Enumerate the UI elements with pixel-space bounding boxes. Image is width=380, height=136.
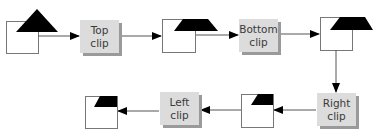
top-clipped-shape [174, 19, 218, 31]
window-after-left-clip [86, 96, 118, 129]
stage-top-clip-line2: clip [90, 37, 108, 50]
stage-right-clip-line2: clip [327, 110, 345, 123]
window-after-bottom-clip [321, 17, 374, 51]
original-triangle-shape [16, 9, 58, 32]
stage-top-clip-line1: Top [91, 24, 109, 37]
left-clipped-shape [94, 96, 117, 107]
stage-bottom-clip: Bottom clip [239, 19, 278, 52]
stage-right-clip: Right clip [317, 93, 356, 126]
stage-right-clip-line1: Right [323, 97, 351, 110]
stage-left-clip-line1: Left [170, 96, 190, 109]
window-after-top-clip [163, 19, 219, 53]
bottom-clipped-shape [330, 17, 373, 30]
window-original [7, 9, 59, 54]
right-clipped-shape [251, 94, 273, 105]
window-after-right-clip [242, 94, 274, 128]
stage-bottom-clip-line2: clip [249, 36, 267, 49]
stage-top-clip: Top clip [80, 20, 119, 53]
stage-left-clip-line2: clip [170, 109, 188, 122]
stage-bottom-clip-line1: Bottom [239, 23, 278, 36]
stage-left-clip: Left clip [160, 92, 199, 125]
